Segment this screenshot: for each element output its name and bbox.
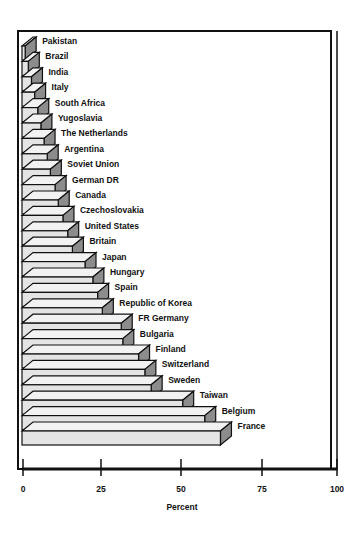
category-label: Soviet Union xyxy=(67,159,119,169)
category-label: Republic of Korea xyxy=(119,298,192,308)
bar-chart: PakistanBrazilIndiaItalySouth AfricaYugo… xyxy=(0,0,360,539)
bar-face xyxy=(22,46,25,60)
bar xyxy=(22,422,231,445)
category-label: South Africa xyxy=(55,98,105,108)
bar-face xyxy=(22,431,220,445)
bar-top xyxy=(22,314,132,323)
bar-top xyxy=(22,345,150,354)
category-label: Japan xyxy=(102,252,127,262)
tick-label: 75 xyxy=(257,484,267,494)
category-label: Hungary xyxy=(110,267,145,277)
category-label: Switzerland xyxy=(162,359,209,369)
category-label: Canada xyxy=(75,190,106,200)
category-label: Argentina xyxy=(64,144,104,154)
category-label: Taiwan xyxy=(200,390,228,400)
bar-top xyxy=(22,391,194,400)
category-label: India xyxy=(48,67,68,77)
tick-label: 0 xyxy=(21,484,26,494)
category-label: Belgium xyxy=(222,406,256,416)
bar-top xyxy=(22,253,96,262)
category-label: Spain xyxy=(115,282,138,292)
x-axis-ticks: 0255075100 xyxy=(21,459,345,494)
bar-top xyxy=(22,283,109,292)
bar-top xyxy=(22,299,113,308)
x-axis-label: Percent xyxy=(166,502,197,512)
bar-top xyxy=(22,360,156,369)
category-label: Brazil xyxy=(45,51,68,61)
tick-label: 50 xyxy=(176,484,186,494)
category-label: Yugoslavia xyxy=(58,113,103,123)
category-label: German DR xyxy=(72,175,119,185)
bar-top xyxy=(22,330,134,339)
category-label: Italy xyxy=(52,82,69,92)
category-label: Pakistan xyxy=(42,36,77,46)
category-label: The Netherlands xyxy=(61,128,128,138)
category-label: Bulgaria xyxy=(140,329,174,339)
category-label: FR Germany xyxy=(138,313,189,323)
tick-label: 25 xyxy=(96,484,106,494)
bar-top xyxy=(22,407,216,416)
tick-label: 100 xyxy=(330,484,344,494)
category-label: Sweden xyxy=(168,375,200,385)
bar-top xyxy=(22,268,104,277)
category-label: Czechoslovakia xyxy=(80,205,144,215)
category-label: Britain xyxy=(89,236,116,246)
bar-top xyxy=(22,422,231,431)
category-label: United States xyxy=(85,221,140,231)
bar-top xyxy=(22,376,162,385)
category-label: France xyxy=(237,421,265,431)
category-label: Finland xyxy=(156,344,186,354)
